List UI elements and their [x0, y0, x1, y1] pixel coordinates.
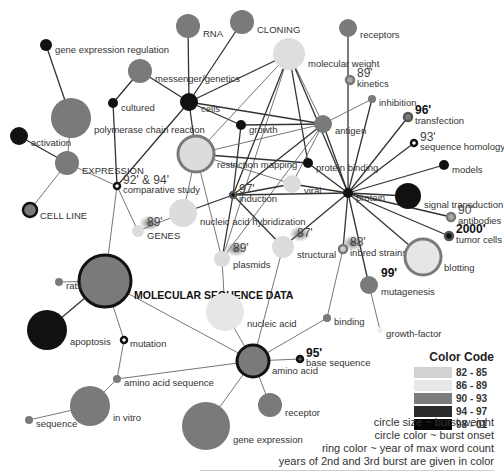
node-base-sequence[interactable]: base sequence95' [297, 346, 370, 368]
burst-year-label: 95' [306, 346, 322, 360]
node-circle[interactable] [169, 199, 197, 227]
node-mutation[interactable]: mutation [121, 337, 166, 349]
node-cloning[interactable]: CLONING [230, 10, 300, 35]
node-signal-transduction[interactable]: signal transduction [395, 183, 503, 210]
node-circle[interactable] [180, 93, 198, 111]
node-sequence[interactable]: sequence [25, 416, 77, 429]
node-amino-acid-sequence[interactable]: amino acid sequence [113, 375, 214, 388]
node-circle[interactable] [343, 188, 353, 198]
node-protein-binding[interactable]: protein binding [303, 158, 378, 173]
node-label: rats [66, 280, 82, 291]
node-label: growth-factor [386, 328, 441, 339]
node-circle[interactable] [25, 416, 33, 424]
node-plasmids[interactable]: plasmids89' [214, 241, 271, 270]
node-inhibition[interactable]: inhibition [368, 95, 417, 108]
node-circle[interactable] [236, 120, 246, 130]
burst-year-label: 97' [239, 182, 255, 196]
node-rna[interactable]: RNA [176, 14, 224, 39]
node-label: receptors [360, 29, 400, 40]
node-label: CELL LINE [40, 210, 87, 221]
node-binding[interactable]: binding [323, 314, 365, 327]
node-circle[interactable] [178, 136, 214, 172]
node-circle[interactable] [405, 239, 441, 275]
node-circle[interactable] [439, 160, 449, 170]
legend-range-label: 86 - 89 [456, 380, 494, 391]
node-label: plasmids [233, 259, 271, 270]
node-circle[interactable] [339, 19, 357, 37]
node-circle[interactable] [314, 115, 332, 133]
node-circle[interactable] [176, 14, 200, 38]
node-label: in vitro [113, 412, 141, 423]
node-receptor[interactable]: receptor [258, 393, 320, 418]
node-circle[interactable] [404, 113, 412, 121]
node-circle[interactable] [230, 192, 236, 198]
node-circle[interactable] [272, 236, 294, 258]
node-circle[interactable] [206, 293, 244, 331]
node-cultured[interactable]: cultured [108, 98, 155, 113]
node-circle[interactable] [237, 345, 269, 377]
legend-note: years of 2nd and 3rd burst are given in … [279, 455, 494, 468]
node-circle[interactable] [114, 183, 120, 189]
node-receptors[interactable]: receptors [339, 19, 400, 40]
node-growth[interactable]: growth [236, 120, 278, 135]
burst-year-label: 93' [420, 130, 436, 144]
node-circle[interactable] [214, 251, 230, 267]
node-circle[interactable] [377, 327, 383, 333]
node-antigen[interactable]: antigen [314, 115, 366, 136]
node-circle[interactable] [79, 255, 131, 307]
legend-notes: circle size ~ burst weight circle color … [279, 416, 494, 468]
legend-row: 90 - 93 [414, 392, 494, 405]
node-circle[interactable] [273, 38, 305, 70]
node-circle[interactable] [55, 151, 79, 175]
node-circle[interactable] [132, 225, 144, 237]
node-circle[interactable] [230, 10, 254, 34]
node-sequence-homology[interactable]: sequence homology93' [411, 130, 504, 152]
node-models[interactable]: models [439, 160, 483, 175]
node-in-vitro[interactable]: in vitro [70, 386, 141, 426]
node-circle[interactable] [411, 140, 417, 146]
node-circle[interactable] [51, 98, 91, 138]
node-messenger-genetics[interactable]: messenger/genetics [128, 59, 240, 84]
node-comparative-study[interactable]: comparative study92' & 94' [114, 173, 200, 195]
node-circle[interactable] [395, 183, 421, 209]
node-circle[interactable] [283, 175, 301, 193]
node-circle[interactable] [40, 39, 52, 51]
legend-note: circle color ~ burst onset [279, 429, 494, 442]
node-cell-line[interactable]: CELL LINE [23, 203, 87, 221]
node-circle[interactable] [23, 203, 37, 217]
node-growth-factor[interactable]: growth-factor [377, 327, 441, 339]
legend-swatch [414, 367, 452, 378]
node-gene-expression-regulation[interactable]: gene expression regulation [40, 39, 169, 55]
node-circle[interactable] [323, 314, 331, 322]
node-circle[interactable] [303, 158, 313, 168]
node-label: activation [31, 137, 71, 148]
node-circle[interactable] [258, 393, 282, 417]
node-circle[interactable] [113, 375, 121, 383]
node-circle[interactable] [297, 356, 303, 362]
legend-note: ring color ~ year of max word count [279, 442, 494, 455]
node-inbred-strains[interactable]: inbred strains88' [339, 235, 407, 258]
edge-molecular-weight-protein-binding [289, 54, 308, 163]
node-label: amino acid sequence [124, 377, 214, 388]
node-circle[interactable] [447, 213, 455, 221]
node-structural[interactable]: structural87' [272, 226, 336, 260]
node-circle[interactable] [339, 245, 347, 253]
node-circle[interactable] [55, 278, 63, 286]
node-circle[interactable] [27, 310, 67, 350]
node-label: binding [334, 316, 365, 327]
node-rats[interactable]: rats [55, 278, 82, 291]
node-circle[interactable] [10, 127, 28, 145]
node-circle[interactable] [108, 98, 118, 108]
node-circle[interactable] [182, 402, 230, 450]
node-kinetics[interactable]: kinetics89' [346, 66, 389, 89]
node-label: cultured [121, 102, 155, 113]
node-circle[interactable] [121, 337, 127, 343]
node-circle[interactable] [360, 276, 378, 294]
burst-year-label: 89' [233, 241, 249, 255]
node-circle[interactable] [445, 232, 453, 240]
node-label: protein [356, 192, 385, 203]
node-circle[interactable] [368, 95, 376, 103]
node-apoptosis[interactable]: apoptosis [27, 310, 111, 350]
node-circle[interactable] [346, 76, 354, 84]
node-circle[interactable] [128, 59, 152, 83]
